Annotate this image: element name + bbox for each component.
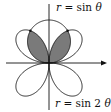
- circle-label: r = sin θ: [56, 1, 102, 13]
- label-variable: r: [55, 97, 60, 109]
- label-theta: θ: [95, 1, 101, 13]
- rose-label: r = sin 2 θ: [55, 97, 111, 109]
- label-theta: θ: [104, 97, 110, 109]
- polar-plot: [0, 0, 111, 112]
- label-equation: = sin: [64, 1, 92, 13]
- intersection-point: [29, 29, 32, 32]
- polar-diagram: r = sin θ r = sin 2 θ: [0, 0, 111, 112]
- label-equation: = sin 2: [63, 97, 101, 109]
- intersection-point: [66, 29, 69, 32]
- label-variable: r: [56, 1, 61, 13]
- x-axis-arrow-icon: [101, 61, 107, 66]
